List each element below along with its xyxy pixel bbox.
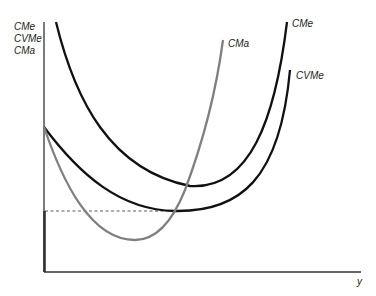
cost-curves-chart <box>0 0 376 296</box>
y-axis-label-cme: CMe <box>14 21 35 33</box>
cme-curve <box>56 22 287 186</box>
x-axis-label: y <box>357 276 362 288</box>
y-axis-label-cvme: CVMe <box>14 33 42 45</box>
cme-curve-label: CMe <box>292 18 313 30</box>
cvme-curve-label: CVMe <box>296 70 324 82</box>
y-axis-label-cma: CMa <box>14 45 35 57</box>
cvme-curve <box>44 70 290 211</box>
cma-curve-label: CMa <box>228 38 249 50</box>
